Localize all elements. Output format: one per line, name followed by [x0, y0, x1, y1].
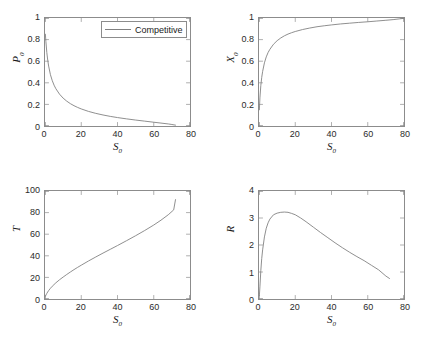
y-tick-label: 20: [6, 274, 40, 283]
x-tick-label: 20: [290, 302, 300, 312]
x-tick-label: 60: [363, 302, 373, 312]
x-tick-label: 60: [363, 129, 373, 139]
x-axis-label-p0: S0: [44, 140, 191, 155]
y-tick-label: 0: [220, 296, 254, 305]
y-tick-label: 1: [220, 13, 254, 22]
x-tick-label: 0: [41, 129, 46, 139]
data-series-line: [259, 212, 389, 296]
y-tick-label: 4: [220, 186, 254, 195]
legend-label-competitive: Competitive: [135, 25, 183, 35]
x-tick-label: 40: [112, 129, 122, 139]
figure-canvas: Competitive 00.20.40.60.81 020406080 P0 …: [0, 0, 427, 346]
plot-area-t: [44, 190, 191, 300]
plot-area-r: [258, 190, 405, 300]
x-tick-label: 20: [290, 129, 300, 139]
x-tick-label: 0: [41, 302, 46, 312]
x-tick-label: 80: [186, 302, 196, 312]
panel-p0: Competitive 00.20.40.60.81 020406080 P0 …: [0, 0, 213, 173]
plot-svg-t: [45, 191, 190, 299]
x-tick-label: 40: [112, 302, 122, 312]
y-tick-label: 0.2: [6, 101, 40, 110]
data-series-line: [259, 18, 404, 109]
y-axis-label-r: R: [224, 199, 236, 259]
x-tick-label: 80: [400, 302, 410, 312]
x-tick-label: 20: [76, 129, 86, 139]
y-tick-label: 1: [220, 268, 254, 277]
data-series-line: [45, 200, 175, 297]
plot-area-x0: [258, 17, 405, 127]
x-tick-label: 60: [149, 302, 159, 312]
plot-svg-r: [259, 191, 404, 299]
y-tick-label: 0: [220, 123, 254, 132]
x-axis-label-t: S0: [44, 313, 191, 328]
y-axis-label-p0: P0: [10, 28, 25, 88]
plot-svg-x0: [259, 18, 404, 126]
x-axis-label-r: S0: [258, 313, 405, 328]
x-tick-label: 20: [76, 302, 86, 312]
panel-r: 01234 020406080 R S0: [214, 173, 427, 346]
x-tick-label: 80: [400, 129, 410, 139]
x-tick-label: 80: [186, 129, 196, 139]
plot-area-p0: Competitive: [44, 17, 191, 127]
x-axis-label-x0: S0: [258, 140, 405, 155]
panel-x0: 00.20.40.60.81 020406080 X0 S0: [214, 0, 427, 173]
y-tick-label: 0: [6, 296, 40, 305]
legend-p0[interactable]: Competitive: [101, 21, 187, 38]
y-tick-label: 0.2: [220, 101, 254, 110]
x-tick-label: 0: [255, 302, 260, 312]
y-axis-label-x0: X0: [224, 28, 239, 88]
x-tick-label: 40: [326, 129, 336, 139]
y-tick-label: 100: [6, 186, 40, 195]
x-tick-label: 40: [326, 302, 336, 312]
y-tick-label: 0: [6, 123, 40, 132]
x-tick-label: 60: [149, 129, 159, 139]
data-series-line: [45, 34, 175, 125]
y-tick-label: 1: [6, 13, 40, 22]
panel-t: 020406080100 020406080 T S0: [0, 173, 213, 346]
x-tick-label: 0: [255, 129, 260, 139]
legend-line-swatch: [105, 29, 131, 30]
y-axis-label-t: T: [10, 199, 22, 259]
